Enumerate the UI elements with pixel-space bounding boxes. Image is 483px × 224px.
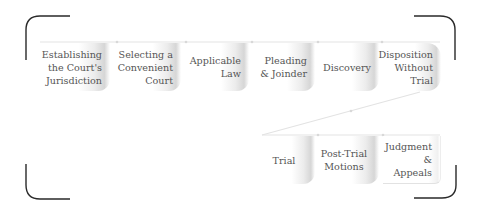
step-disposition-without-trial: Disposition Without Trial xyxy=(383,43,441,91)
step-label: Judgment & Appeals xyxy=(383,140,432,179)
step-selecting-court: Selecting a Convenient Court xyxy=(118,43,181,91)
step-label: Selecting a Convenient Court xyxy=(118,48,173,87)
bracket-bottom-left xyxy=(26,164,70,199)
frame-brackets xyxy=(0,0,483,224)
step-label: Pleading & Joinder xyxy=(260,54,307,80)
step-pleading-joinder: Pleading & Joinder xyxy=(253,43,315,91)
step-applicable-law: Applicable Law xyxy=(187,43,249,91)
step-label: Disposition Without Trial xyxy=(379,48,433,87)
step-judgment-appeals: Judgment & Appeals xyxy=(383,136,441,184)
litigation-flow-diagram: Establishing the Court's Jurisdiction Se… xyxy=(0,0,483,224)
step-label: Applicable Law xyxy=(190,54,241,80)
step-label: Trial xyxy=(273,154,296,167)
step-label: Establishing the Court's Jurisdiction xyxy=(42,48,102,87)
step-label: Post-Trial Motions xyxy=(321,147,367,173)
step-label: Discovery xyxy=(323,61,371,74)
step-discovery: Discovery xyxy=(319,43,379,91)
step-trial: Trial xyxy=(263,136,315,184)
diagonal-connector xyxy=(262,92,420,135)
step-establishing-jurisdiction: Establishing the Court's Jurisdiction xyxy=(40,43,110,91)
step-post-trial-motions: Post-Trial Motions xyxy=(319,136,379,184)
